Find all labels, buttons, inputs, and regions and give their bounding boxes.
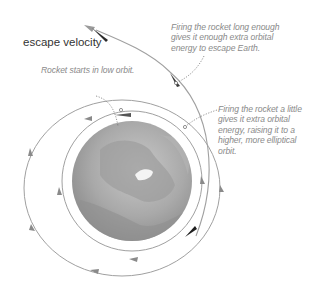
annotation-line: Firing the rocket long enough (171, 22, 279, 32)
annotation-line: gives it enough extra orbital (171, 32, 279, 42)
leader-dot (119, 108, 122, 111)
annotation-line: Firing the rocket a little (218, 104, 302, 114)
annotation-line: Rocket starts in low orbit. (41, 65, 134, 75)
orbit-arrow-icon (57, 187, 62, 195)
leader-dot (183, 125, 186, 128)
annotation-low-orbit: Rocket starts in low orbit. (41, 65, 134, 75)
annotation-line: orbit. (218, 146, 302, 156)
annotation-line: higher, more elliptical (218, 135, 302, 145)
escape-velocity-diagram: escape velocity Rocket starts in low orb… (0, 0, 317, 284)
orbit-arrow-icon (84, 116, 92, 121)
annotation-line: energy, raising it to a (218, 125, 302, 135)
rocket-icon (185, 226, 197, 237)
diagram-title: escape velocity (23, 36, 102, 48)
earth-globe (72, 121, 195, 250)
orbit-arrow-icon (200, 176, 205, 184)
annotation-line: energy to escape Earth. (171, 43, 279, 53)
annotation-line: gives it extra orbital (218, 114, 302, 124)
annotation-elliptical: Firing the rocket a little gives it extr… (218, 104, 302, 156)
escape-arrow-icon (84, 25, 95, 32)
leader-dot (174, 81, 177, 84)
annotation-escape: Firing the rocket long enough gives it e… (171, 22, 279, 53)
leader-line (178, 56, 204, 82)
orbit-arrow-icon (129, 257, 138, 262)
rocket-icon (115, 113, 131, 117)
